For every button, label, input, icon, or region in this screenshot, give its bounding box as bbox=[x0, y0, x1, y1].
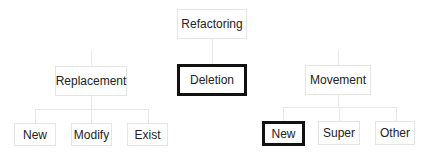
node-movement-super: Super bbox=[318, 121, 360, 145]
connector-replacement-modify bbox=[91, 109, 92, 123]
node-label: Other bbox=[380, 126, 410, 140]
connector-movement-other bbox=[396, 107, 397, 121]
node-label: Modify bbox=[74, 128, 109, 142]
node-replacement-exist: Exist bbox=[127, 123, 168, 146]
connector-movement-new bbox=[283, 107, 284, 121]
node-replacement-modify: Modify bbox=[71, 123, 112, 146]
node-replacement-new: New bbox=[14, 123, 56, 146]
node-refactoring: Refactoring bbox=[177, 9, 247, 39]
node-label: Replacement bbox=[56, 74, 127, 88]
node-label: New bbox=[23, 128, 47, 142]
node-movement: Movement bbox=[305, 65, 371, 95]
node-label: Refactoring bbox=[181, 17, 242, 31]
node-replacement: Replacement bbox=[55, 66, 127, 96]
connector-replacement-down bbox=[91, 96, 92, 109]
node-label: Movement bbox=[310, 73, 366, 87]
connector-root-to-deletion bbox=[212, 39, 213, 64]
connector-replacement-exist bbox=[148, 109, 149, 123]
node-label: New bbox=[271, 127, 295, 141]
node-label: Super bbox=[323, 126, 355, 140]
node-deletion: Deletion bbox=[177, 64, 247, 96]
connector-replacement-bar bbox=[35, 109, 149, 110]
refactoring-tree-diagram: Refactoring Replacement Deletion Movemen… bbox=[0, 0, 431, 153]
connector-stub-replacement bbox=[91, 50, 92, 66]
node-movement-other: Other bbox=[375, 121, 415, 145]
connector-movement-super bbox=[339, 107, 340, 121]
node-label: Exist bbox=[134, 128, 160, 142]
node-label: Deletion bbox=[190, 73, 234, 87]
connector-movement-bar bbox=[283, 107, 397, 108]
connector-replacement-new bbox=[35, 109, 36, 123]
connector-movement-down bbox=[338, 95, 339, 107]
connector-stub-movement bbox=[338, 50, 339, 65]
node-movement-new: New bbox=[262, 121, 305, 146]
